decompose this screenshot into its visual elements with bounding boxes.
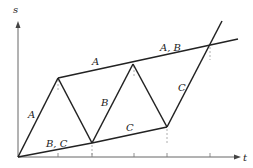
path-a-upper bbox=[58, 39, 238, 78]
label-a-upper: A bbox=[91, 56, 99, 67]
t-axis-label: t bbox=[243, 152, 248, 163]
label-c-rise: C bbox=[178, 82, 186, 93]
path-descent-2 bbox=[133, 64, 167, 127]
label-b-rise: B bbox=[100, 97, 108, 108]
label-a-rise: A bbox=[27, 109, 35, 120]
label-bc-lower: B, C bbox=[45, 138, 68, 149]
s-axis-arrow-icon bbox=[16, 21, 21, 28]
s-axis-label: s bbox=[13, 4, 18, 15]
trajectories bbox=[18, 21, 238, 157]
t-axis-arrow-icon bbox=[234, 155, 241, 160]
segment-labels: A B, C A B C A, B C bbox=[27, 42, 186, 149]
path-descent-1 bbox=[58, 78, 92, 143]
label-c-lower: C bbox=[126, 122, 134, 133]
path-c-rise bbox=[167, 21, 222, 127]
label-ab-upper: A, B bbox=[159, 42, 181, 53]
dashed-drop-lines bbox=[58, 47, 210, 157]
space-time-diagram: s t A B, C A B C A, B C bbox=[0, 0, 253, 168]
t-axis-ticks bbox=[58, 153, 210, 157]
